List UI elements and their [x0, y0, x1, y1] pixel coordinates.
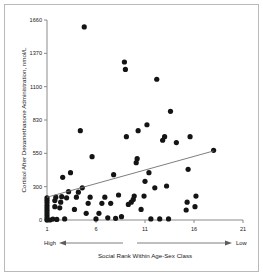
data-point	[74, 195, 79, 200]
data-point	[89, 154, 94, 159]
y-tick-label: 550	[33, 150, 42, 156]
data-point	[105, 215, 110, 220]
data-point	[68, 170, 73, 175]
x-tick-label: 11	[142, 226, 148, 232]
data-point	[58, 200, 63, 205]
data-point	[82, 24, 87, 29]
data-point	[111, 172, 116, 177]
x-tick-label: 1	[45, 226, 48, 232]
data-point	[132, 194, 137, 199]
arrow-head-left-icon	[59, 241, 66, 246]
data-point	[136, 128, 141, 133]
x-axis-title: Social Rank Within Age-Sex Class	[98, 252, 192, 259]
data-point	[59, 194, 64, 199]
data-point	[88, 195, 93, 200]
data-point	[193, 194, 198, 199]
y-tick-label: 830	[33, 117, 42, 123]
data-point	[138, 207, 143, 212]
data-point	[192, 204, 197, 209]
data-point	[62, 216, 67, 221]
data-point	[162, 134, 167, 139]
data-point	[211, 148, 216, 153]
data-point	[154, 77, 159, 82]
data-point	[72, 207, 77, 212]
data-point	[52, 204, 57, 209]
y-tick-label: 1370	[30, 50, 42, 56]
data-point-group	[44, 24, 216, 222]
figure-container: 0300550830110013701660 16111621 High Low…	[0, 0, 263, 276]
data-point	[64, 195, 69, 200]
y-tick-label: 1100	[30, 84, 42, 90]
data-point	[166, 216, 171, 221]
data-point	[96, 211, 101, 216]
data-point	[186, 167, 191, 172]
data-point	[152, 185, 157, 190]
data-point	[187, 134, 192, 139]
x-tick-label: 21	[240, 226, 246, 232]
y-axis-title: Cortisol After Dexamethasone Administrat…	[20, 47, 27, 192]
data-point	[144, 122, 149, 127]
x-tick-group: 16111621	[45, 220, 246, 232]
data-point	[57, 205, 62, 210]
data-point	[141, 194, 146, 199]
rank-direction-arrow: High Low	[44, 240, 247, 246]
data-point	[184, 207, 189, 212]
data-point	[135, 156, 140, 161]
data-point	[185, 200, 190, 205]
axes-group	[47, 20, 243, 220]
data-point	[142, 179, 147, 184]
x-tick-label: 16	[191, 226, 197, 232]
data-point	[93, 216, 98, 221]
arrow-head-right-icon	[225, 241, 232, 246]
y-tick-label: 300	[33, 184, 42, 190]
data-point	[122, 59, 127, 64]
y-tick-group: 0300550830110013701660	[30, 17, 47, 223]
data-point	[102, 195, 107, 200]
data-point	[54, 217, 59, 222]
data-point	[99, 201, 104, 206]
data-point	[76, 190, 81, 195]
data-point	[168, 109, 173, 114]
data-point	[60, 175, 65, 180]
data-point	[116, 192, 121, 197]
data-point	[113, 216, 118, 221]
rank-label-high: High	[44, 240, 56, 246]
data-point	[157, 216, 162, 221]
data-point	[84, 211, 89, 216]
data-point	[124, 134, 129, 139]
data-point	[123, 67, 128, 72]
data-point	[146, 170, 151, 175]
data-point	[108, 201, 113, 206]
y-tick-label: 1660	[30, 17, 42, 23]
rank-label-low: Low	[236, 240, 247, 246]
scatter-plot: 0300550830110013701660 16111621 High Low…	[0, 0, 263, 276]
data-point	[78, 128, 83, 133]
x-tick-label: 6	[94, 226, 97, 232]
data-point	[164, 183, 169, 188]
data-point	[174, 140, 179, 145]
data-point	[119, 214, 124, 219]
data-point	[148, 216, 153, 221]
data-point	[44, 195, 49, 200]
y-tick-label: 0	[39, 217, 42, 223]
data-point	[86, 201, 91, 206]
